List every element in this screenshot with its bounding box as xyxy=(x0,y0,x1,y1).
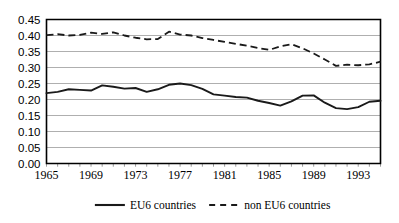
series-line-1 xyxy=(47,84,381,110)
chart-legend: EU6 countriesnon EU6 countries xyxy=(95,199,331,211)
y-axis-tick-label: 0.30 xyxy=(18,62,40,74)
y-axis-tick-label: 0.20 xyxy=(18,94,40,106)
y-axis-tick-label: 0.25 xyxy=(18,78,40,90)
series-line-2 xyxy=(47,32,381,66)
x-axis-tick-label: 1981 xyxy=(213,168,237,182)
x-axis-tick-labels: 19651969197319771981198519891993 xyxy=(35,168,371,182)
y-axis-tick-label: 0.45 xyxy=(18,14,40,26)
axis-frame xyxy=(47,20,381,164)
line-chart: 0.000.050.100.150.200.250.300.350.400.45… xyxy=(0,0,399,223)
x-axis-tick-label: 1989 xyxy=(302,168,326,182)
legend-label-2: non EU6 countries xyxy=(244,199,331,211)
x-axis-tick-label: 1969 xyxy=(79,168,103,182)
x-axis-tick-label: 1965 xyxy=(35,168,59,182)
y-axis-tick-label: 0.15 xyxy=(18,110,40,122)
data-series-group xyxy=(47,32,381,109)
y-axis-tick-label: 0.35 xyxy=(18,46,40,58)
y-axis-tick-label: 0.10 xyxy=(18,126,40,138)
plot-frame xyxy=(47,20,381,164)
legend-label-1: EU6 countries xyxy=(130,199,197,211)
y-axis-tick-label: 0.40 xyxy=(18,30,40,42)
x-axis-tick-label: 1993 xyxy=(346,168,370,182)
x-axis-tick-label: 1985 xyxy=(257,168,281,182)
gridlines-group xyxy=(47,20,381,148)
y-axis-tick-label: 0.05 xyxy=(18,142,40,154)
chart-svg: 0.000.050.100.150.200.250.300.350.400.45… xyxy=(0,0,399,223)
chart-container: 0.000.050.100.150.200.250.300.350.400.45… xyxy=(0,0,399,223)
y-axis-tick-labels: 0.000.050.100.150.200.250.300.350.400.45 xyxy=(18,14,40,170)
x-axis-tick-label: 1973 xyxy=(124,168,148,182)
x-axis-tick-label: 1977 xyxy=(168,168,192,182)
